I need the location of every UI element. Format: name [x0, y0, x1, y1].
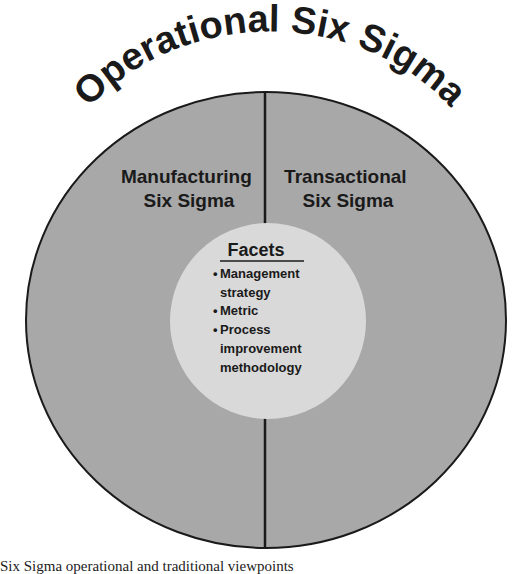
bullet-icon: • — [213, 266, 218, 281]
figure-caption: Six Sigma operational and traditional vi… — [0, 558, 294, 574]
six-sigma-diagram: Operational Six Sigma Manufacturing Six … — [0, 0, 528, 574]
bullet-icon: • — [213, 322, 218, 337]
facet-item-metric: Metric — [220, 303, 258, 318]
facets-heading: Facets — [227, 240, 284, 260]
bullet-icon: • — [213, 303, 218, 318]
